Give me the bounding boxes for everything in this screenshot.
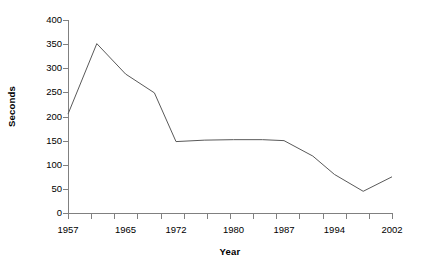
series-polyline bbox=[68, 44, 392, 192]
y-axis-tick-label: 150 bbox=[24, 136, 62, 146]
data-series-line bbox=[68, 20, 392, 214]
line-chart: Seconds 400350300250200150100500 1957196… bbox=[0, 0, 421, 276]
x-axis-tick-mark bbox=[369, 214, 370, 219]
y-axis-tick-label: 400 bbox=[24, 15, 62, 25]
x-axis-tick-mark bbox=[299, 214, 300, 219]
y-axis-tick-label: 100 bbox=[24, 160, 62, 170]
x-axis-tick-label: 2002 bbox=[372, 224, 412, 236]
x-axis-tick-mark bbox=[91, 214, 92, 219]
y-axis-tick-label: 0 bbox=[24, 208, 62, 218]
x-axis-title: Year bbox=[68, 246, 392, 257]
y-axis-tick-labels: 400350300250200150100500 bbox=[24, 0, 62, 220]
x-axis-tick-label: 1987 bbox=[264, 224, 304, 236]
x-axis-tick-mark bbox=[184, 214, 185, 219]
x-axis-tick-mark bbox=[137, 214, 138, 219]
x-axis-tick-labels: 1957196519721980198719942002 bbox=[0, 224, 421, 238]
x-axis-tick-label: 1957 bbox=[48, 224, 88, 236]
x-axis-tick-mark bbox=[323, 214, 324, 219]
x-axis-tick-label: 1972 bbox=[156, 224, 196, 236]
x-axis-tick-label: 1994 bbox=[314, 224, 354, 236]
y-axis-title: Seconds bbox=[0, 0, 22, 213]
x-axis-tick-mark bbox=[114, 214, 115, 219]
y-axis-tick-label: 350 bbox=[24, 39, 62, 49]
x-axis-tick-mark bbox=[392, 214, 393, 219]
x-axis-tick-mark bbox=[68, 214, 69, 219]
x-axis-tick-mark bbox=[276, 214, 277, 219]
y-axis-tick-label: 250 bbox=[24, 87, 62, 97]
x-axis-tick-mark bbox=[346, 214, 347, 219]
x-axis-tick-label: 1980 bbox=[214, 224, 254, 236]
y-axis-tick-label: 200 bbox=[24, 112, 62, 122]
x-axis-tick-label: 1965 bbox=[106, 224, 146, 236]
x-axis-tick-mark bbox=[230, 214, 231, 219]
y-axis-tick-label: 300 bbox=[24, 63, 62, 73]
y-axis-tick-label: 50 bbox=[24, 184, 62, 194]
x-axis-tick-mark bbox=[207, 214, 208, 219]
x-axis-tick-mark bbox=[161, 214, 162, 219]
y-axis-title-label: Seconds bbox=[6, 86, 17, 127]
x-axis-tick-mark bbox=[253, 214, 254, 219]
